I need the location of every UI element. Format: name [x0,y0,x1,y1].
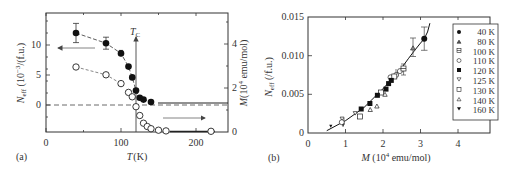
legend-label: 120 K [473,66,496,76]
x-ticks-a [46,13,196,132]
tc-label: TC [130,26,141,39]
figure: 0 100 200 0 5 10 0 2 4 T(K) (a) Neff (10… [0,0,506,173]
legend-marker-square-with-line [457,49,461,53]
y-axis-label-a: Neff (10−3/(f.u.) [14,43,28,104]
y-tick-label: 5 [36,69,41,80]
x-tick-label: 4 [456,138,461,149]
legend-marker-open-circle [457,59,461,63]
x-tick-label: 3 [418,138,423,149]
legend-marker-filled-square [457,68,461,72]
legend-label: 80 K [477,37,495,47]
x-tick-label: 200 [189,137,204,148]
x-tick-label: 0 [306,138,311,149]
legend-label: 100 K [473,47,496,57]
y-tick-label: 0.015 [282,11,305,22]
fit-curve [327,23,430,131]
x-axis-label-a: T(K) [127,151,147,163]
legend-label: 130 K [473,86,496,96]
x-tick-label: 100 [114,137,129,148]
x-axis-label-unit: (K) [133,151,147,163]
y-tick-label: 0.010 [282,50,305,61]
x-tick-label: 0 [44,137,49,148]
legend-label: 125 K [473,76,496,86]
legend-label: 40 K [477,27,495,37]
y-tick-label: 0 [36,99,41,110]
y-right-axis-label-a: M(104 emu/mol) [237,40,250,108]
y-tick-label: 0.005 [282,88,305,99]
panel-label-b: (b) [268,152,280,164]
panel-b: 0 1 2 3 4 0 0.005 0.010 0.015 M (104 emu… [263,11,498,164]
y-tick-label: 10 [31,39,41,50]
y-tick-label: 0 [299,127,304,138]
y-axis-label-b: Neff (/f.u.) [263,57,276,98]
x-tick-label: 2 [381,138,386,149]
legend-marker-open-square [457,88,461,92]
y-ticks-left-a [46,21,50,117]
legend-marker-filled-circle [457,30,461,34]
legend-label: 160 K [473,105,496,115]
panel-a: 0 100 200 0 5 10 0 2 4 T(K) (a) Neff (10… [14,13,250,163]
panel-label-a: (a) [16,151,27,163]
legend: 40 K 80 K 100 K 110 K 120 K 125 K 130 K … [453,24,498,120]
y-ticks-right-a [224,22,228,110]
y-right-tick-label: 0 [232,126,237,137]
legend-label: 140 K [473,96,496,106]
y-right-tick-label: 4 [232,38,237,49]
neff-series [73,23,155,105]
x-tick-label: 1 [343,138,348,149]
legend-label: 110 K [473,56,495,66]
scatter-points-b [329,27,427,128]
x-axis-label-b: M (104 emu/mol) [360,151,430,164]
y-ticks-b [308,56,312,95]
